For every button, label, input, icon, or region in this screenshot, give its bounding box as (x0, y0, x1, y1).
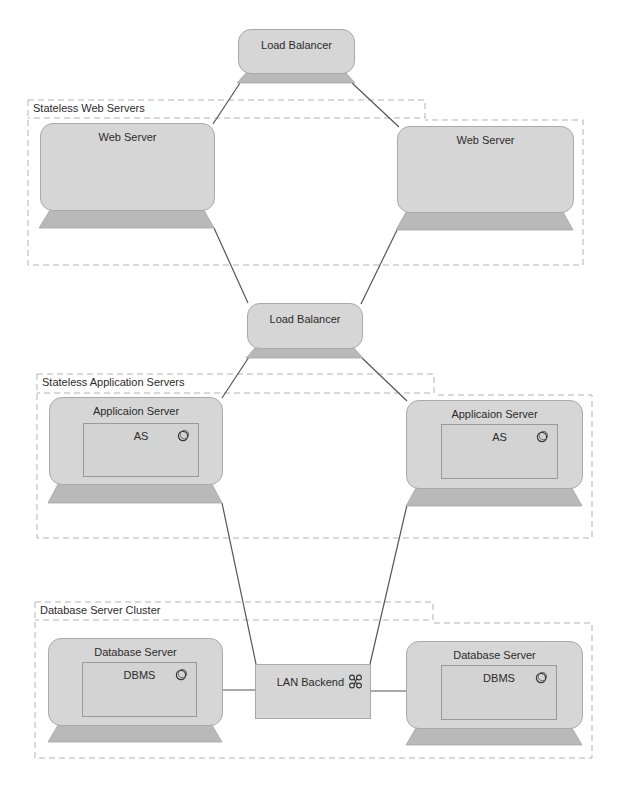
node-title: Web Server (398, 134, 573, 146)
connector-web-left-lb2 (214, 228, 248, 303)
load-balancer-middle[interactable]: Load Balancer (247, 303, 363, 349)
component-dbms-right[interactable]: DBMS (441, 665, 557, 720)
connector-lb2-app-right (361, 357, 407, 401)
connector-lb2-app-left (222, 357, 249, 398)
lan-backend-node[interactable]: LAN Backend (255, 664, 371, 719)
lan-backend-label: LAN Backend (277, 676, 344, 688)
web-left-base (39, 210, 214, 228)
app-right-base (406, 488, 582, 506)
connector-web-right-lb2 (361, 228, 398, 304)
connector-app-right-lan (370, 505, 407, 664)
group-label-db-cluster: Database Server Cluster (40, 604, 160, 616)
app-left-base (48, 484, 222, 503)
node-title: Database Server (49, 646, 222, 658)
node-title: Applicaion Server (50, 405, 222, 417)
component-dbms-left[interactable]: DBMS (82, 662, 197, 717)
lb-middle-base (246, 348, 363, 358)
app-server-left[interactable]: Applicaion Server AS (49, 397, 223, 485)
component-icon (536, 430, 549, 443)
db-server-right[interactable]: Database Server DBMS (406, 641, 583, 729)
db-server-left[interactable]: Database Server DBMS (48, 638, 223, 726)
component-as-left[interactable]: AS (83, 423, 199, 477)
deployment-diagram: Stateless Web Servers Stateless Applicat… (0, 0, 619, 787)
web-right-base (396, 212, 573, 230)
node-title: Web Server (41, 131, 214, 143)
node-title: Load Balancer (248, 313, 362, 325)
db-right-base (406, 728, 582, 745)
web-server-right[interactable]: Web Server (397, 126, 574, 213)
component-as-right[interactable]: AS (441, 424, 558, 479)
node-title: Database Server (407, 649, 582, 661)
component-icon (177, 429, 190, 442)
app-server-right[interactable]: Applicaion Server AS (406, 400, 583, 489)
node-title: Load Balancer (239, 39, 354, 51)
load-balancer-top[interactable]: Load Balancer (238, 29, 355, 74)
group-label-web-servers: Stateless Web Servers (33, 102, 145, 114)
connector-lb1-web-right (352, 83, 399, 127)
component-icon (535, 671, 548, 684)
node-title: Applicaion Server (407, 408, 582, 420)
db-left-base (48, 725, 222, 742)
lb-top-base (237, 73, 355, 83)
connector-app-left-lan (222, 503, 256, 664)
component-icon (175, 668, 188, 681)
web-server-left[interactable]: Web Server (40, 123, 215, 211)
group-label-app-servers: Stateless Application Servers (42, 376, 184, 388)
network-icon (348, 674, 363, 689)
